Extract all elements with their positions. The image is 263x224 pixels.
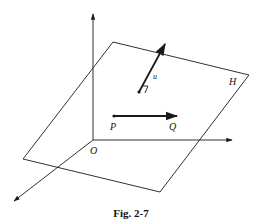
figure-caption: Fig. 2-7: [113, 207, 149, 219]
figure-canvas: u H P Q O Fig. 2-7: [0, 0, 263, 224]
y-axis: [14, 140, 93, 201]
right-angle-mark: [143, 86, 148, 93]
label-q: Q: [169, 121, 177, 132]
label-origin: O: [90, 145, 97, 156]
label-u: u: [153, 72, 157, 81]
point-p-dot: [112, 114, 115, 117]
label-h: H: [228, 76, 237, 87]
label-p: P: [109, 121, 116, 132]
normal-vector-base-point: [137, 90, 140, 93]
plane-h: [23, 42, 249, 192]
